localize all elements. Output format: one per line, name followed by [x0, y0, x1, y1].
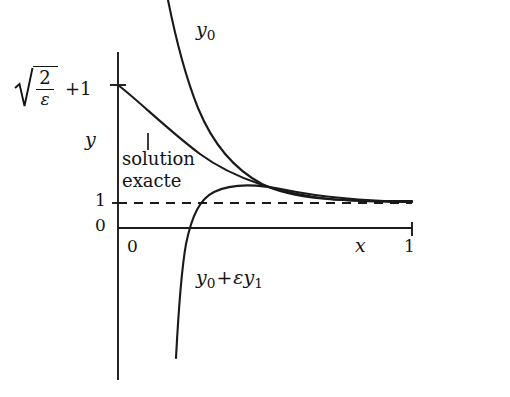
- plot-svg: [0, 0, 510, 397]
- y-max-addend: +1: [65, 77, 92, 98]
- two-term-label-second-subscript: 1: [254, 275, 263, 291]
- x-axis-label: x: [355, 236, 366, 255]
- y-one-tick-label: 1: [95, 192, 106, 209]
- exact-solution-label: solution exacte: [122, 148, 195, 192]
- x-one-tick-label: 1: [404, 238, 415, 255]
- radical-group: 2 ε: [14, 66, 58, 108]
- curve-y0-label: y0: [196, 20, 215, 43]
- two-term-label-second: y: [244, 266, 255, 288]
- y-zero-tick-label: 0: [95, 217, 106, 234]
- two-term-label-base: y: [196, 266, 207, 288]
- curve-y0-label-subscript: 0: [207, 27, 216, 43]
- fraction-denominator: ε: [37, 90, 52, 109]
- two-term-label-epsilon: ε: [233, 266, 243, 288]
- fraction-numerator: 2: [36, 69, 53, 89]
- curve-y0-label-base: y: [196, 18, 207, 40]
- fraction-group: 2 ε: [33, 66, 58, 108]
- x-zero-tick-label: 0: [127, 238, 138, 255]
- y-max-tick-label: 2 ε +1: [14, 66, 92, 108]
- radical-sign-icon: [14, 66, 34, 108]
- two-term-label-operator: +: [215, 266, 233, 288]
- figure-canvas: 2 ε +1 y x 1 0 0 1 y0 y0+εy1 solution ex…: [0, 0, 510, 397]
- exact-solution-label-line2: exacte: [122, 170, 195, 192]
- exact-solution-label-line1: solution: [122, 148, 195, 170]
- curve-two-term-label: y0+εy1: [196, 268, 263, 291]
- y-axis-label: y: [85, 130, 96, 149]
